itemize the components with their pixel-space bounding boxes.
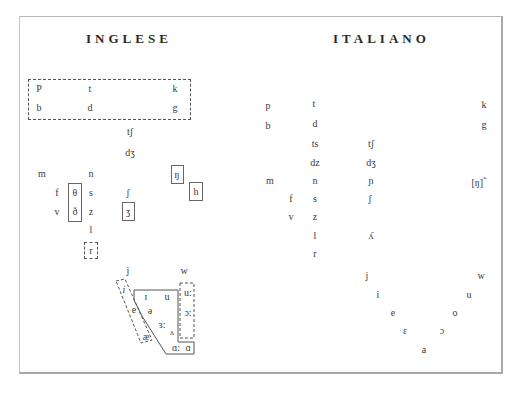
en-vowel-lax-u: u — [165, 291, 170, 303]
en-vowel-lax-i: ɪ — [145, 291, 148, 303]
it-vowel-u: u — [467, 289, 472, 301]
en-vowel-uu: u: — [184, 287, 192, 299]
en-vowel-a-back: ɑ — [185, 342, 190, 354]
en-vowel-ae: æ — [143, 331, 150, 343]
it-velar-nasal: [ŋ]* — [471, 173, 486, 188]
en-vowel-wedge: ʌ — [170, 327, 174, 339]
it-velar-nasal-footnote-mark: * — [483, 175, 487, 183]
it-r: r — [313, 248, 316, 260]
it-velar-nasal-symbol: [ŋ] — [471, 177, 483, 188]
it-vowel-open-o: ɔ — [440, 325, 444, 337]
en-vowel-oo: ɔ: — [184, 307, 191, 319]
it-vowel-open-e: ɛ — [403, 325, 407, 337]
it-f: f — [289, 193, 292, 205]
it-sh: ʃ — [368, 193, 371, 205]
it-k: k — [482, 99, 487, 111]
en-vowel-er: ɜ: — [159, 319, 166, 331]
it-vowel-o: o — [453, 307, 458, 319]
it-d: d — [313, 118, 318, 130]
it-w: w — [477, 270, 484, 282]
it-ts: ts — [312, 138, 319, 150]
it-dz: dz — [310, 157, 319, 169]
it-z: z — [313, 211, 317, 223]
it-lj: ʎ — [369, 230, 374, 242]
it-nj: ɲ — [369, 175, 374, 187]
it-g: g — [482, 119, 487, 131]
it-n: n — [313, 175, 318, 187]
it-v: v — [289, 211, 294, 223]
it-p: p — [266, 100, 271, 112]
it-s: s — [313, 193, 317, 205]
en-vowel-schwa: ə — [148, 305, 152, 317]
italian-title: ITALIANO — [333, 31, 430, 47]
en-vowel-aa: ɑ: — [172, 342, 180, 354]
it-dzh: dʒ — [366, 157, 375, 169]
it-vowel-e: e — [391, 307, 395, 319]
it-j: j — [366, 270, 369, 282]
it-b: b — [266, 120, 271, 132]
it-t: t — [313, 98, 316, 110]
it-l: l — [314, 230, 317, 242]
it-tsh: tʃ — [368, 138, 374, 150]
it-vowel-i: i — [377, 289, 380, 301]
en-vowel-e: e — [132, 304, 136, 316]
it-m: m — [266, 175, 274, 187]
it-vowel-a: a — [422, 344, 426, 356]
en-vowel-i: i — [123, 284, 126, 296]
